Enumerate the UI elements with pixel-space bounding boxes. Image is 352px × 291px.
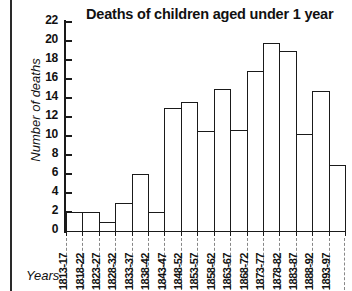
bar — [181, 102, 198, 231]
bar — [247, 71, 264, 231]
y-tick-label: 20 — [45, 33, 58, 45]
bar — [99, 222, 116, 232]
x-tick-mark — [345, 231, 346, 236]
x-tick-label-text: 1863-67 — [221, 253, 233, 290]
x-tick-label-text: 1833-37 — [123, 253, 135, 290]
bar — [312, 91, 329, 231]
bar — [164, 108, 181, 232]
x-tick-label-text: 1828-32 — [106, 253, 118, 290]
bar — [132, 174, 149, 231]
bar-group — [66, 22, 345, 231]
x-tick-label-text: 1883-87 — [287, 253, 299, 290]
chart-title: Deaths of children aged under 1 year — [86, 6, 333, 22]
y-axis-title: Number of deaths — [26, 30, 44, 190]
x-tick-label-text: 1843-47 — [156, 253, 168, 290]
bar — [279, 51, 296, 232]
x-tick-label-text: 1888-92 — [303, 253, 315, 290]
x-label-divider — [344, 238, 345, 290]
y-tick-label: 16 — [45, 71, 58, 83]
y-tick-label: 18 — [45, 52, 58, 64]
bar — [148, 212, 165, 231]
x-tick-label-text: 1858-62 — [205, 253, 217, 290]
x-tick-label-text: 1868-72 — [238, 253, 250, 290]
y-tick-label: 6 — [52, 166, 58, 178]
y-tick-label: 22 — [45, 14, 58, 26]
bar — [296, 134, 313, 231]
x-tick-label-text: 1848-52 — [172, 253, 184, 290]
y-tick-label: 14 — [45, 90, 58, 102]
bar — [329, 165, 346, 232]
bar — [66, 212, 83, 231]
chart-page: Deaths of children aged under 1 year Num… — [0, 0, 352, 291]
bar — [82, 212, 99, 231]
x-axis-title: Years — [26, 268, 59, 283]
y-tick-label: 8 — [52, 147, 58, 159]
bar — [197, 131, 214, 231]
bar — [230, 130, 247, 231]
y-tick-label: 2 — [52, 204, 58, 216]
y-tick-label: 0 — [52, 223, 58, 235]
plot-area: 0246810121416182022 — [66, 22, 345, 231]
bar — [263, 43, 280, 231]
y-tick-label: 12 — [45, 109, 58, 121]
bar — [115, 203, 132, 232]
x-tick-label: 1893-97 — [329, 238, 345, 290]
y-tick-label: 10 — [45, 128, 58, 140]
x-tick-label-text: 1853-57 — [188, 253, 200, 290]
bar — [214, 89, 231, 232]
page-edge-line — [10, 0, 12, 291]
x-tick-label-text: 1878-82 — [271, 253, 283, 290]
x-tick-label-group: 1813-171818-221823-271828-321833-371838-… — [66, 236, 345, 291]
x-tick-label-text: 1873-77 — [254, 253, 266, 290]
x-tick-label-text: 1838-42 — [139, 253, 151, 290]
y-axis-title-text: Number of deaths — [28, 58, 43, 161]
x-tick-label-text: 1818-22 — [74, 253, 86, 290]
y-tick-label: 4 — [52, 185, 58, 197]
x-tick-label-text: 1893-97 — [320, 253, 332, 290]
x-tick-label-text: 1823-27 — [90, 253, 102, 290]
